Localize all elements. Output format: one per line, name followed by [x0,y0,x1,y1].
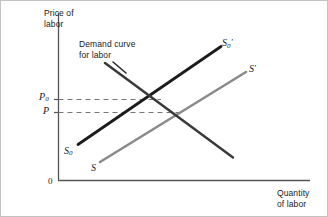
s0-prime-mark: ′ [231,37,233,47]
supply-demand-figure: Price of labor Quantity of labor 0 P0 P … [0,0,328,217]
x-axis-label: Quantity of labor [277,188,309,209]
s-prime-mark: ′ [254,63,256,73]
supply-curve-s0-prime-label: S0′ [222,37,233,51]
y-tick-label-p: P [43,106,49,117]
demand-curve [105,63,233,158]
y-axis-label: Price of labor [44,8,74,29]
y-tick-label-p0: P0 [39,92,49,105]
p0-subscript: 0 [45,95,49,103]
demand-curve-label: Demand curve for labor [79,39,135,60]
supply-curve-s0-label: S0 [64,146,73,159]
origin-label: 0 [48,176,53,187]
supply-curve-s-prime [100,72,246,162]
supply-curve-s-label: S [91,163,96,174]
supply-curve-s-prime-label: S′ [249,63,256,75]
s0-subscript: 0 [69,149,73,157]
